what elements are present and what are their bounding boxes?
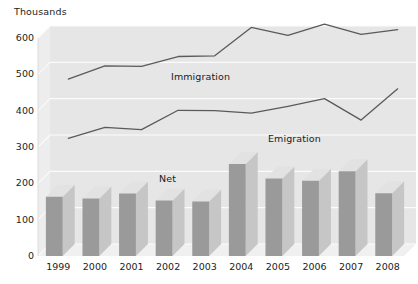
series-annotation-immigration: Immigration [171,71,230,82]
y-tick-200: 200 [8,178,34,188]
bar-net-2008 [375,181,404,256]
x-tick-2006: 2006 [302,262,326,272]
y-tick-300: 300 [8,142,34,152]
y-axis-tick-labels: 6005004003002001000 [4,0,34,284]
x-tick-2007: 2007 [339,262,363,272]
bar-net-2003 [192,190,221,257]
x-axis-tick-labels: 1999200020012002200320042005200620072008 [0,262,418,280]
bar-net-2005 [265,167,294,256]
y-tick-100: 100 [8,215,34,225]
y-tick-0: 0 [8,251,34,261]
bar-net-2001 [119,182,148,256]
bar-net-1999 [46,185,75,256]
x-tick-2002: 2002 [156,262,180,272]
x-tick-2005: 2005 [266,262,290,272]
y-tick-600: 600 [8,33,34,43]
x-tick-2004: 2004 [229,262,253,272]
y-tick-500: 500 [8,69,34,79]
x-tick-2003: 2003 [193,262,217,272]
x-tick-2008: 2008 [376,262,400,272]
immigration-emigration-net-chart: Thousands 6005004003002001000 1999200020… [0,0,418,284]
bar-net-2004 [229,152,258,256]
bar-net-2006 [302,169,331,256]
bar-net-2000 [82,187,111,256]
x-tick-2000: 2000 [83,262,107,272]
y-tick-400: 400 [8,106,34,116]
bar-net-2007 [339,159,368,256]
bar-net-2002 [156,188,185,256]
series-annotation-emigration: Emigration [268,133,321,144]
x-tick-2001: 2001 [119,262,143,272]
series-annotation-net: Net [159,173,176,184]
chart-plot-area [0,0,418,284]
x-tick-1999: 1999 [46,262,70,272]
